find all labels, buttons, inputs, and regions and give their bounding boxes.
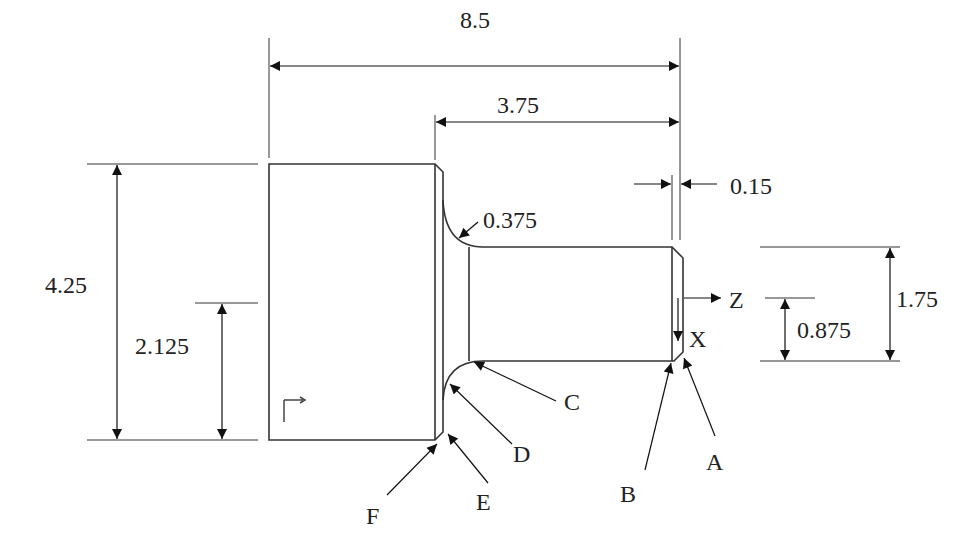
coordinate-system-icon: [284, 397, 305, 422]
point-b-label: B: [620, 482, 636, 506]
axis-x-label: X: [689, 327, 706, 351]
label-shaft-length: 3.75: [497, 93, 539, 117]
axis-z-label: Z: [729, 288, 744, 312]
extension-lines: [87, 38, 900, 440]
point-f-label: F: [366, 504, 379, 528]
point-d-label: D: [513, 442, 530, 466]
point-a-label: A: [706, 450, 723, 474]
label-fillet-radius: 0.375: [483, 208, 537, 232]
dimension-lines: [117, 66, 890, 495]
label-chamfer-width: 0.15: [730, 174, 772, 198]
point-e-label: E: [476, 490, 491, 514]
point-c-label: C: [564, 390, 580, 414]
label-shaft-radius: 0.875: [797, 318, 851, 342]
part-outline: [269, 164, 683, 440]
label-flange-radius: 2.125: [135, 334, 189, 358]
label-overall-length: 8.5: [460, 8, 490, 32]
label-shaft-diameter: 1.75: [896, 287, 938, 311]
label-flange-diameter: 4.25: [45, 273, 87, 297]
part-drawing: [0, 0, 979, 548]
